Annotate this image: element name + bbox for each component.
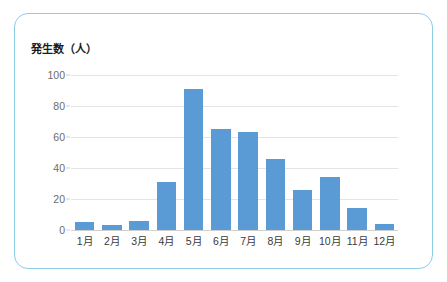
bar[interactable] [157, 182, 177, 230]
x-tick-label: 3月 [126, 233, 153, 248]
chart-card: 発生数（人） 020406080100 1月2月3月4月5月6月7月8月9月10… [14, 13, 433, 269]
y-tick-label: 20 [53, 193, 65, 205]
bar[interactable] [347, 208, 367, 230]
bar-slot [289, 75, 316, 230]
x-tick-label: 6月 [207, 233, 234, 248]
x-tick-label: 12月 [371, 233, 398, 248]
x-tick-label: 8月 [262, 233, 289, 248]
x-tick-label: 9月 [289, 233, 316, 248]
y-tick-mark [66, 199, 70, 200]
x-tick-label: 5月 [180, 233, 207, 248]
y-tick-label: 100 [47, 69, 65, 81]
y-axis-title: 発生数（人） [31, 40, 97, 56]
y-tick-label: 40 [53, 162, 65, 174]
bar[interactable] [211, 129, 231, 230]
bar[interactable] [266, 159, 286, 230]
x-tick-label: 11月 [344, 233, 371, 248]
x-tick-label: 7月 [235, 233, 262, 248]
bar[interactable] [238, 132, 258, 230]
x-axis-labels: 1月2月3月4月5月6月7月8月9月10月11月12月 [71, 233, 398, 251]
y-tick-mark [66, 137, 70, 138]
bar[interactable] [184, 89, 204, 230]
x-tick-label: 4月 [153, 233, 180, 248]
bar[interactable] [293, 190, 313, 230]
y-tick-mark [66, 230, 70, 231]
bar-slot [98, 75, 125, 230]
x-tick-label: 10月 [316, 233, 343, 248]
bar[interactable] [75, 222, 95, 230]
bar-slot [371, 75, 398, 230]
y-tick-label: 0 [59, 224, 65, 236]
bar[interactable] [102, 225, 122, 230]
bar-slot [344, 75, 371, 230]
bar-slot [153, 75, 180, 230]
bar-slot [262, 75, 289, 230]
bar[interactable] [129, 221, 149, 230]
bar-slot [207, 75, 234, 230]
axis-baseline [71, 230, 398, 231]
y-tick-mark [66, 106, 70, 107]
plot-area: 020406080100 [71, 75, 398, 230]
y-tick-label: 80 [53, 100, 65, 112]
bar-slot [316, 75, 343, 230]
bar-slot [71, 75, 98, 230]
bar-slot [126, 75, 153, 230]
bar-slot [235, 75, 262, 230]
bar-series [71, 75, 398, 230]
x-tick-label: 2月 [98, 233, 125, 248]
y-tick-mark [66, 168, 70, 169]
bar-slot [180, 75, 207, 230]
bar[interactable] [375, 224, 395, 230]
y-tick-label: 60 [53, 131, 65, 143]
y-tick-mark [66, 75, 70, 76]
bar[interactable] [320, 177, 340, 230]
x-tick-label: 1月 [71, 233, 98, 248]
